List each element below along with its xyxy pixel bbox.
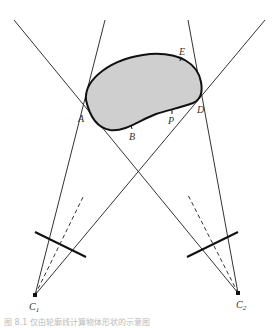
camera-center-c2 <box>236 291 240 295</box>
label-c2: C2 <box>236 299 247 312</box>
label-d: D <box>196 104 205 115</box>
object-blob <box>86 54 202 130</box>
image-plane-left <box>35 232 86 257</box>
camera-center-c1 <box>33 293 37 297</box>
label-c1: C1 <box>29 301 39 314</box>
figure-caption: 图 8.1 仅由轮廓线计算物体形状的示意图 <box>4 316 275 327</box>
label-e: E <box>178 46 185 57</box>
label-a: A <box>77 113 85 124</box>
label-p: P <box>167 115 174 126</box>
stereo-contour-diagram: A B P D E C1 C2 <box>0 0 279 328</box>
label-b: B <box>129 131 135 142</box>
